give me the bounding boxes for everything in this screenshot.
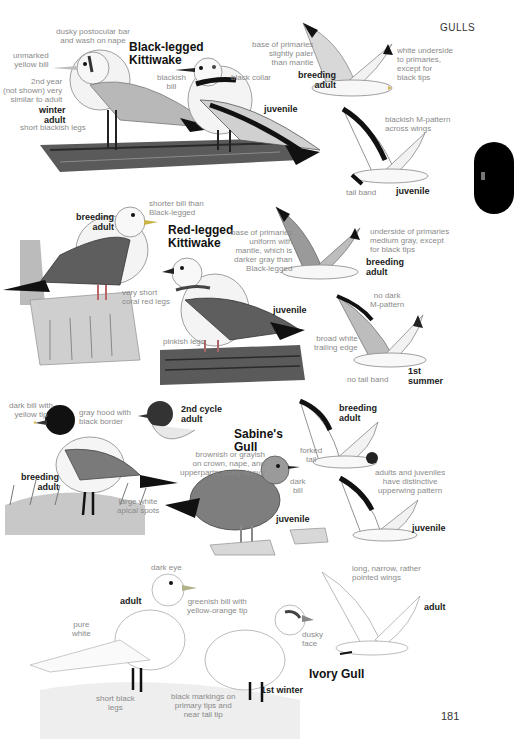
label-greenish-bill: greenish bill with yellow-orange tip — [187, 597, 247, 615]
age-ivory-adult-flight: adult — [424, 602, 446, 612]
age-1st-winter: 1st winter — [261, 685, 303, 695]
label-gray-hood: gray hood with black border — [79, 408, 131, 426]
age-rlk-breeding-adult-flight: breeding adult — [366, 257, 404, 277]
label-dark-eye: dark eye — [151, 563, 182, 572]
age-sab-breeding-adult-flight: breeding adult — [339, 403, 377, 423]
label-short-black-legs: short black legs — [96, 694, 135, 712]
age-winter-adult: winter adult — [39, 105, 66, 125]
label-no-tail-band: no tail band — [347, 375, 388, 384]
ivo-adult — [30, 574, 197, 692]
label-apical-spots: large white apical spots — [117, 497, 159, 515]
label-second-year: 2nd year (not shown) very similar to adu… — [3, 77, 62, 104]
thumb-tab-icon — [481, 172, 485, 180]
label-coral-legs: very short coral red legs — [122, 288, 170, 306]
age-juvenile-flight: juvenile — [396, 186, 430, 196]
label-rlk-underside: underside of primaries medium gray, exce… — [370, 227, 449, 254]
rlk-driftwood — [160, 345, 305, 385]
label-long-wings: long, narrow, rather pointed wings — [352, 564, 421, 582]
age-sab-breeding-adult: breeding adult — [21, 472, 59, 492]
label-short-legs: short blackish legs — [20, 123, 86, 132]
label-m-pattern: blackish M-pattern across wings — [385, 115, 450, 133]
age-rlk-breeding-adult: breeding adult — [76, 212, 114, 232]
age-juvenile: juvenile — [264, 104, 298, 114]
label-no-m-pattern: no dark M-pattern — [370, 291, 404, 309]
label-trailing-edge: broad white trailing edge — [314, 334, 358, 352]
label-blackish-bill: blackish bill — [157, 73, 186, 91]
ivo-adult-flight — [322, 572, 420, 655]
label-upperwing: adults and juveniles have distinctive up… — [375, 468, 445, 495]
label-dusky-face: dusky face — [302, 630, 323, 648]
label-black-markings: black markings on primary tips and near … — [171, 692, 235, 719]
blk-driftwood — [40, 138, 300, 172]
age-rlk-juvenile: juvenile — [273, 305, 307, 315]
label-dark-bill: dark bill — [290, 477, 306, 495]
species-name-red-legged-kittiwake: Red-legged Kittiwake — [168, 224, 233, 250]
label-white-underside: white underside to primaries, except for… — [397, 46, 453, 82]
section-header: GULLS — [440, 22, 475, 33]
label-brownish: brownish or grayish on crown, nape, and … — [180, 450, 265, 477]
age-breeding-adult-flight: breeding adult — [298, 70, 336, 90]
age-sab-juvenile: juvenile — [276, 514, 310, 524]
label-forked-tail: forked tail — [300, 446, 322, 464]
species-name-ivory-gull: Ivory Gull — [309, 668, 364, 681]
label-sab-bill: dark bill with yellow tip — [9, 401, 53, 419]
age-2nd-cycle-adult: 2nd cycle adult — [181, 404, 222, 424]
label-pure-white: pure white — [72, 620, 91, 638]
species-name-black-legged-kittiwake: Black-legged Kittiwake — [129, 41, 204, 67]
label-rlk-primaries-base: base of primaries uniform with mantle, w… — [231, 228, 292, 273]
thumb-tab[interactable] — [474, 142, 514, 214]
label-pinkish-legs: pinkish legs — [163, 337, 205, 346]
label-primaries-base: base of primaries slightly paler than ma… — [252, 40, 313, 67]
page-number: 181 — [441, 710, 459, 722]
label-tail-band: tail band — [346, 188, 376, 197]
label-black-collar: black collar — [231, 73, 271, 82]
label-shorter-bill: shorter bill than Black-legged — [149, 199, 204, 217]
age-first-summer: 1st summer — [408, 366, 443, 386]
label-yellow-bill: unmarked yellow bill — [13, 51, 49, 69]
age-sab-juvenile-flight: juvenile — [412, 523, 446, 533]
age-ivory-adult: adult — [120, 596, 142, 606]
label-postocular: dusky postocular bar and wash on nape — [56, 27, 130, 45]
